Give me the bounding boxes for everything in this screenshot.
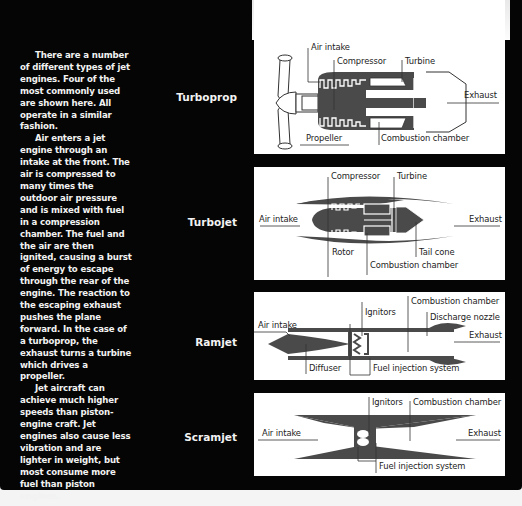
scramjet-panel: Ignitors Combustion chamber Air intake E…: [254, 393, 505, 476]
engine-label-ramjet: Ramjet: [195, 336, 237, 348]
turbojet-label-compressor: Compressor: [331, 171, 380, 181]
turboprop-label-exhaust: Exhaust: [464, 90, 497, 100]
turbojet-label-tail-cone: Tail cone: [419, 247, 454, 257]
turboprop-label-combustion-chamber: Combustion chamber: [381, 133, 469, 143]
scramjet-label-exhaust: Exhaust: [468, 428, 501, 438]
intro-paragraph-3: Jet aircraft can achieve much higher spe…: [20, 383, 132, 502]
turboprop-label-air-intake: Air intake: [311, 42, 350, 52]
engine-label-turbojet: Turbojet: [188, 216, 237, 228]
scramjet-label-fuel-injection-system: Fuel injection system: [379, 461, 465, 471]
ramjet-label-fuel-injection-system: Fuel injection system: [373, 363, 459, 373]
turboprop-label-turbine: Turbine: [405, 56, 435, 66]
engine-label-scramjet: Scramjet: [184, 431, 237, 443]
engine-label-turboprop: Turboprop: [176, 91, 237, 103]
turboprop-diagram: [254, 0, 505, 154]
turbojet-label-exhaust: Exhaust: [469, 214, 502, 224]
turbojet-label-turbine: Turbine: [397, 171, 427, 181]
intro-paragraph-1: There are a number of different types of…: [20, 50, 132, 133]
scramjet-label-ignitors: Ignitors: [372, 397, 403, 407]
turbojet-label-air-intake: Air intake: [259, 214, 298, 224]
scramjet-label-air-intake: Air intake: [262, 428, 301, 438]
ramjet-label-ignitors: Ignitors: [365, 307, 396, 317]
turboprop-label-compressor: Compressor: [337, 56, 386, 66]
ramjet-label-diffuser: Diffuser: [309, 363, 341, 373]
scramjet-label-combustion-chamber: Combustion chamber: [413, 397, 501, 407]
turbojet-panel: Compressor Turbine Air intake Exhaust Ro…: [254, 167, 505, 280]
ramjet-label-discharge-nozzle: Discharge nozzle: [430, 312, 500, 322]
ramjet-label-combustion-chamber: Combustion chamber: [411, 296, 499, 306]
intro-text: There are a number of different types of…: [20, 50, 132, 502]
ramjet-panel: Combustion chamber Ignitors Discharge no…: [254, 292, 505, 380]
ramjet-label-exhaust: Exhaust: [469, 330, 502, 340]
turboprop-panel: Air intake Compressor Turbine Exhaust Pr…: [254, 0, 505, 154]
intro-paragraph-2: Air enters a jet engine through an intak…: [20, 133, 132, 383]
ramjet-label-air-intake: Air intake: [258, 320, 297, 330]
turboprop-label-propeller: Propeller: [306, 133, 342, 143]
turbojet-label-rotor: Rotor: [332, 247, 354, 257]
turbojet-label-combustion-chamber: Combustion chamber: [370, 260, 458, 270]
